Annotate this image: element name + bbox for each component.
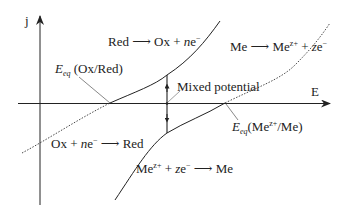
mixed-potential-label: Mixed potential: [177, 80, 260, 93]
eeq-me-leader: [226, 104, 238, 120]
e-axis-label: E: [311, 85, 319, 98]
me-curve-solid: [115, 103, 225, 200]
reaction-me-oxidation: Me ⟶ Mez+ + ze−: [230, 40, 327, 53]
j-axis-label: j: [25, 14, 29, 27]
eeq-ox-red-leader: [79, 77, 110, 103]
reaction-ox-to-red: Ox + ne− ⟶ Red: [51, 137, 144, 150]
polarization-diagram: [0, 0, 354, 218]
mixed-potential-point: [166, 102, 169, 105]
reaction-red-to-ox: Red ⟶ Ox + ne−: [108, 35, 201, 48]
eeq-ox-red-label: Eeq (Ox/Red): [55, 62, 123, 75]
eeq-me-label: Eeq(Mez+/Me): [232, 120, 303, 133]
reaction-me-reduction: Mez+ + ze− ⟶ Me: [136, 162, 233, 175]
